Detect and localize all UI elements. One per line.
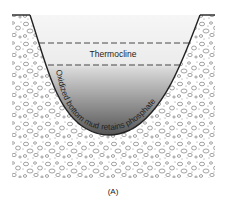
figure-caption: (A) <box>108 187 119 196</box>
lake-cross-section-diagram: Thermocline Oxidized bottom mud retains … <box>0 0 226 205</box>
thermocline-label: Thermocline <box>90 49 137 59</box>
